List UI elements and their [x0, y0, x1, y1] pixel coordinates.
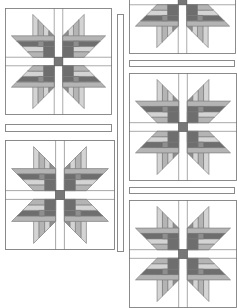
quilt-block-right-middle: [129, 73, 237, 181]
sashing-strip-center-vertical: [117, 14, 124, 252]
sashing-strip-right-horizontal-1: [129, 60, 235, 67]
quilt-block-left-bottom: [5, 140, 115, 250]
quilt-block-right-bottom-partial: [129, 200, 237, 308]
quilt-block-right-top-partial: [129, 0, 236, 54]
sashing-strip-right-horizontal-2: [129, 187, 235, 194]
quilt-block-left-top: [5, 8, 112, 115]
sashing-strip-left-horizontal: [5, 124, 112, 132]
